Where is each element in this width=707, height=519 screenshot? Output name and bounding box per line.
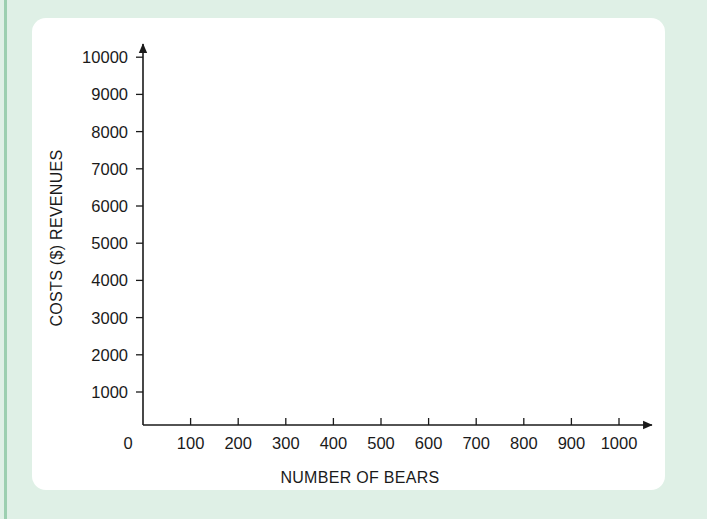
y-tick-label: 2000 <box>91 346 128 364</box>
x-axis-title: NUMBER OF BEARS <box>280 469 439 486</box>
x-tick-label: 600 <box>415 434 443 452</box>
y-tick-label: 4000 <box>91 271 128 289</box>
y-tick-label: 10000 <box>82 48 128 66</box>
origin-label: 0 <box>123 434 132 452</box>
x-tick-label: 500 <box>367 434 395 452</box>
empty-axes-chart: 1000 2000 3000 4000 5000 6000 7000 8000 … <box>0 0 707 519</box>
y-axis-tick-labels: 1000 2000 3000 4000 5000 6000 7000 8000 … <box>82 48 128 401</box>
x-tick-label: 700 <box>462 434 490 452</box>
y-axis-ticks <box>136 57 143 392</box>
y-tick-label: 9000 <box>91 85 128 103</box>
y-axis-title: COSTS ($) REVENUES <box>48 150 65 327</box>
x-tick-label: 800 <box>510 434 538 452</box>
y-tick-label: 7000 <box>91 160 128 178</box>
x-tick-label: 900 <box>558 434 586 452</box>
y-tick-label: 5000 <box>91 234 128 252</box>
x-tick-label: 1000 <box>601 434 638 452</box>
x-axis-tick-labels: 100 200 300 400 500 600 700 800 900 1000 <box>177 434 638 452</box>
x-tick-label: 400 <box>320 434 348 452</box>
y-tick-label: 8000 <box>91 123 128 141</box>
x-axis-ticks <box>191 418 619 425</box>
x-tick-label: 300 <box>272 434 300 452</box>
x-tick-label: 100 <box>177 434 205 452</box>
x-tick-label: 200 <box>224 434 252 452</box>
y-tick-label: 6000 <box>91 197 128 215</box>
y-tick-label: 1000 <box>91 383 128 401</box>
y-tick-label: 3000 <box>91 309 128 327</box>
